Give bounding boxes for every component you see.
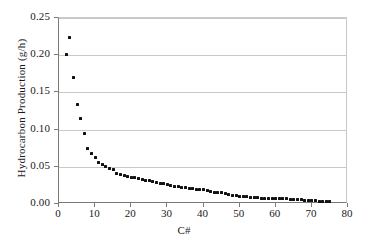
data-point — [65, 53, 68, 56]
data-point — [227, 193, 230, 196]
gridline-y — [59, 18, 346, 19]
plot-area — [58, 17, 347, 203]
y-tick-mark — [54, 54, 58, 55]
data-point — [177, 185, 180, 188]
x-tick-label: 50 — [224, 207, 254, 219]
data-point — [321, 200, 324, 203]
data-point — [292, 198, 295, 201]
y-tick-mark — [54, 17, 58, 18]
gridline-y — [59, 130, 346, 131]
data-point — [314, 199, 317, 202]
data-point — [267, 197, 270, 200]
data-point — [249, 196, 252, 199]
x-tick-label: 0 — [43, 207, 73, 219]
data-point — [253, 196, 256, 199]
data-point — [180, 186, 183, 189]
data-point — [310, 199, 313, 202]
data-point — [72, 76, 75, 79]
data-point — [144, 179, 147, 182]
data-point — [202, 188, 205, 191]
x-tick-label: 20 — [115, 207, 145, 219]
data-point — [141, 178, 144, 181]
data-point — [76, 103, 79, 106]
data-point — [198, 188, 201, 191]
data-point — [318, 200, 321, 203]
y-tick-mark — [54, 91, 58, 92]
chart-container: 0.000.050.100.150.200.25 010203040506070… — [0, 0, 368, 248]
data-point — [238, 195, 241, 198]
data-point — [155, 181, 158, 184]
data-point — [188, 187, 191, 190]
x-tick-label: 30 — [151, 207, 181, 219]
data-point — [260, 197, 263, 200]
data-point — [271, 197, 274, 200]
data-point — [86, 147, 89, 150]
data-point — [278, 197, 281, 200]
data-point — [79, 117, 82, 120]
x-axis-title: C# — [0, 224, 368, 236]
data-point — [119, 173, 122, 176]
gridline-y — [59, 55, 346, 56]
data-point — [97, 161, 100, 164]
y-tick-mark — [54, 129, 58, 130]
data-point — [289, 198, 292, 201]
x-tick-label: 10 — [79, 207, 109, 219]
data-point — [94, 156, 97, 159]
data-point — [325, 200, 328, 203]
data-point — [209, 190, 212, 193]
data-point — [166, 183, 169, 186]
data-point — [206, 189, 209, 192]
x-tick-label: 60 — [260, 207, 290, 219]
data-point — [108, 167, 111, 170]
data-point — [151, 180, 154, 183]
data-point — [162, 182, 165, 185]
data-point — [83, 132, 86, 135]
data-point — [231, 194, 234, 197]
data-point — [256, 196, 259, 199]
data-point — [303, 199, 306, 202]
data-point — [169, 184, 172, 187]
data-point — [224, 192, 227, 195]
data-point — [130, 176, 133, 179]
data-point — [112, 168, 115, 171]
data-point — [213, 191, 216, 194]
data-point — [245, 195, 248, 198]
x-tick-label: 70 — [296, 207, 326, 219]
data-point — [133, 176, 136, 179]
data-point — [307, 199, 310, 202]
data-point — [159, 182, 162, 185]
data-point — [328, 200, 331, 203]
data-point — [173, 185, 176, 188]
data-point — [90, 152, 93, 155]
data-point — [123, 174, 126, 177]
data-point — [281, 197, 284, 200]
data-point — [195, 188, 198, 191]
data-point — [191, 187, 194, 190]
x-tick-label: 80 — [332, 207, 362, 219]
x-tick-label: 40 — [188, 207, 218, 219]
data-point — [216, 191, 219, 194]
data-point — [115, 172, 118, 175]
data-point — [296, 198, 299, 201]
data-point — [285, 197, 288, 200]
data-point — [148, 179, 151, 182]
y-tick-mark — [54, 166, 58, 167]
data-point — [242, 195, 245, 198]
data-point — [300, 198, 303, 201]
data-point — [184, 186, 187, 189]
data-point — [235, 194, 238, 197]
data-point — [137, 177, 140, 180]
gridline-y — [59, 167, 346, 168]
data-point — [126, 175, 129, 178]
data-point — [68, 36, 71, 39]
y-axis-title: Hydrocarbon Production (g/h) — [15, 15, 27, 201]
gridline-y — [59, 92, 346, 93]
data-point — [104, 165, 107, 168]
data-point — [220, 191, 223, 194]
data-point — [263, 197, 266, 200]
data-point — [274, 197, 277, 200]
data-point — [101, 163, 104, 166]
